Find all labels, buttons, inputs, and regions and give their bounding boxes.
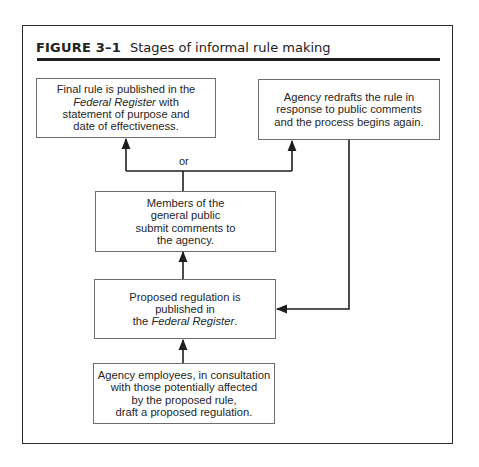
text-line: the Federal Register.	[129, 315, 240, 327]
text-line: with those potentially affected	[98, 381, 270, 393]
text-line: by the proposed rule,	[98, 394, 270, 406]
text-line: statement of purpose and	[57, 108, 196, 120]
text-line: and the process begins again.	[274, 116, 423, 128]
text-line: date of effectiveness.	[57, 120, 196, 132]
box-proposed-published: Proposed regulation is published in the …	[94, 279, 276, 339]
text-line: Members of the	[135, 197, 235, 209]
text-line: Agency employees, in consultation	[98, 369, 270, 381]
arrow-redraft-feedback	[277, 139, 349, 309]
box-final-rule: Final rule is published in the Federal R…	[36, 78, 216, 138]
italic-publication-name: Federal Register	[151, 315, 234, 327]
text-fragment: .	[234, 315, 237, 327]
box-redraft: Agency redrafts the rule in response to …	[258, 79, 440, 140]
italic-publication-name: Federal Register	[73, 96, 156, 108]
text-fragment: with	[156, 96, 179, 108]
box-draft-regulation: Agency employees, in consultation with t…	[93, 363, 275, 424]
text-fragment: the	[133, 315, 152, 327]
text-line: general public	[135, 209, 235, 221]
text-line: Agency redrafts the rule in	[274, 91, 423, 103]
text-line: response to public comments	[274, 103, 423, 115]
text-line: Proposed regulation is	[129, 291, 240, 303]
text-line: the agency.	[135, 234, 235, 246]
branch-label-or: or	[179, 155, 189, 167]
text-line: Final rule is published in the	[57, 83, 196, 95]
text-line: Federal Register with	[57, 96, 196, 108]
text-line: draft a proposed regulation.	[98, 406, 270, 418]
text-line: submit comments to	[135, 222, 235, 234]
text-line: published in	[129, 303, 240, 315]
box-public-comments: Members of the general public submit com…	[95, 191, 276, 252]
